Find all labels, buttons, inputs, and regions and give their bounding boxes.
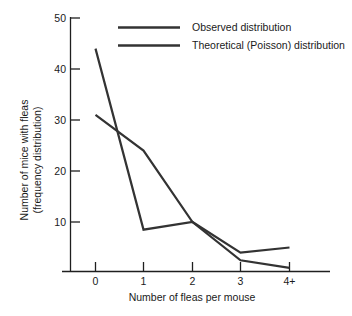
y-tick-label-30: 30	[54, 114, 66, 126]
x-tick-label-4: 4+	[284, 275, 296, 287]
y-axis-title: Number of mice with fleas (frequency dis…	[18, 100, 43, 221]
y-tick-label-20: 20	[54, 165, 66, 177]
x-tick-label-1: 1	[141, 275, 147, 287]
y-tick-label-50: 50	[54, 12, 66, 24]
series-group	[96, 49, 290, 268]
x-tick-label-3: 3	[238, 275, 244, 287]
x-axis: 0 1 2 3 4+ Number of fleas per mouse	[62, 262, 330, 303]
y-tick-label-10: 10	[54, 216, 66, 228]
legend-label-theoretical: Theoretical (Poisson) distribution	[192, 39, 345, 51]
x-tick-label-0: 0	[93, 275, 99, 287]
x-axis-title: Number of fleas per mouse	[129, 291, 256, 303]
series-line-theoretical	[96, 115, 290, 268]
chart-canvas: 50 40 30 20 10 Number of mice with fleas…	[0, 0, 352, 316]
x-tick-label-2: 2	[190, 275, 196, 287]
y-tick-label-40: 40	[54, 63, 66, 75]
chart-legend: Observed distribution Theoretical (Poiss…	[118, 21, 345, 51]
y-axis-title-line2: (frequency distribution)	[31, 107, 43, 214]
flea-distribution-chart: 50 40 30 20 10 Number of mice with fleas…	[0, 0, 352, 316]
legend-label-observed: Observed distribution	[192, 21, 291, 33]
y-axis-title-line1: Number of mice with fleas	[18, 100, 30, 221]
y-axis: 50 40 30 20 10 Number of mice with fleas…	[18, 12, 80, 271]
